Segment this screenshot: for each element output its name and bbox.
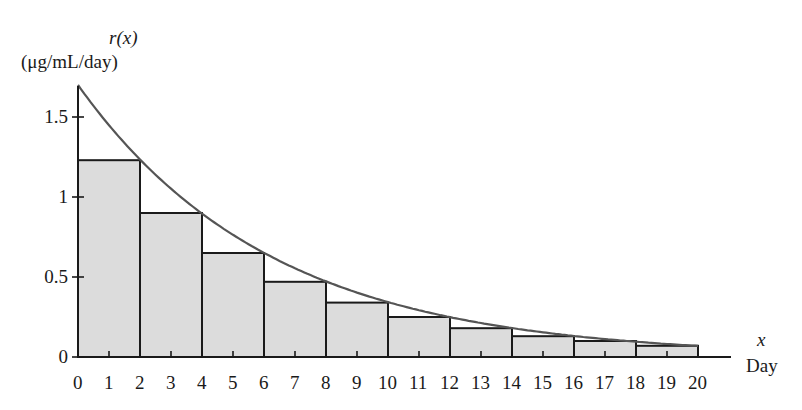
x-tick-label: 6 <box>259 373 269 392</box>
x-tick-label: 8 <box>321 373 331 392</box>
x-tick-label: 13 <box>471 373 490 392</box>
y-tick-label: 1 <box>59 187 69 206</box>
x-tick-label: 18 <box>626 373 645 392</box>
x-tick-label: 5 <box>228 373 238 392</box>
y-tick-label: 1.5 <box>44 107 68 126</box>
chart: r(x) (μg/mL/day) x Day 01234567891011121… <box>0 0 802 410</box>
x-tick-label: 0 <box>73 373 83 392</box>
bar <box>140 213 202 357</box>
x-tick-label: 17 <box>595 373 614 392</box>
y-axis-unit: (μg/mL/day) <box>21 52 118 71</box>
x-tick-label: 3 <box>166 373 176 392</box>
bar <box>78 160 140 357</box>
x-tick-label: 9 <box>352 373 362 392</box>
x-tick-label: 11 <box>409 373 427 392</box>
x-tick-label: 20 <box>688 373 707 392</box>
plot-area <box>0 0 802 410</box>
x-tick-label: 7 <box>290 373 300 392</box>
x-tick-label: 1 <box>104 373 114 392</box>
x-tick-label: 4 <box>197 373 207 392</box>
x-axis-unit: Day <box>746 356 778 375</box>
y-tick-label: 0 <box>59 347 69 366</box>
x-tick-label: 16 <box>564 373 583 392</box>
x-tick-label: 12 <box>440 373 459 392</box>
y-axis-label: r(x) <box>109 28 137 47</box>
x-tick-label: 14 <box>502 373 521 392</box>
x-axis-label: x <box>757 330 765 349</box>
bar <box>264 282 326 357</box>
bar <box>202 253 264 357</box>
y-tick-label: 0.5 <box>44 267 68 286</box>
x-tick-label: 19 <box>657 373 676 392</box>
bar <box>326 303 388 357</box>
x-tick-label: 10 <box>378 373 397 392</box>
x-tick-label: 15 <box>533 373 552 392</box>
x-tick-label: 2 <box>135 373 145 392</box>
